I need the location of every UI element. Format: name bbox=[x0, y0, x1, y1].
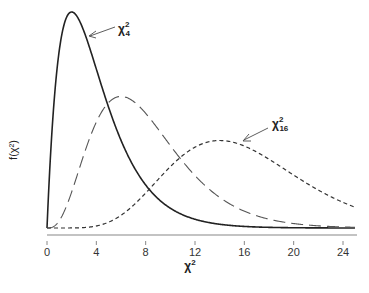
annotation-chi2-4: χ24 bbox=[89, 20, 130, 38]
x-tick-label: 0 bbox=[44, 246, 50, 258]
x-tick-label: 8 bbox=[143, 246, 149, 258]
x-axis-title: χ2 bbox=[184, 258, 196, 273]
curves bbox=[47, 12, 355, 228]
x-tick-label: 12 bbox=[189, 246, 201, 258]
x-tick-label: 24 bbox=[337, 246, 349, 258]
annotation-arrow bbox=[244, 128, 268, 140]
y-axis-title: f(χ²) bbox=[7, 140, 19, 160]
x-tick-label: 4 bbox=[93, 246, 99, 258]
x-tick-label: 16 bbox=[238, 246, 250, 258]
x-tick-label: 20 bbox=[288, 246, 300, 258]
svg-text:χ24: χ24 bbox=[118, 20, 130, 38]
annotation-arrow bbox=[90, 27, 115, 36]
chi-square-density-chart: 04812162024 χ2 f(χ²) χ24 χ216 bbox=[0, 0, 369, 293]
svg-text:χ216: χ216 bbox=[272, 115, 289, 133]
annotation-chi2-16: χ216 bbox=[243, 115, 289, 141]
curve-chi2-df8 bbox=[47, 96, 355, 228]
x-axis-ticks: 04812162024 bbox=[44, 241, 349, 258]
curve-chi2-df16 bbox=[47, 141, 355, 228]
curve-chi2-df4 bbox=[47, 12, 355, 228]
